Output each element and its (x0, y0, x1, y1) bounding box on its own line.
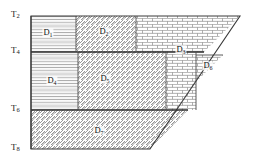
subdomain-label-D6: D6 (202, 61, 213, 70)
domain-decomposition-figure: T2 T4 T6 T8 D1 D2 D3 D4 D5 D6 D7 (0, 0, 269, 163)
axis-tick-T8: T8 (11, 143, 20, 153)
subdomain-D5-fill (78, 52, 166, 110)
subdomain-label-D5: D5 (99, 74, 110, 83)
figure-canvas (0, 0, 269, 163)
subdomain-label-D2: D2 (98, 27, 109, 36)
axis-tick-T2: T2 (11, 10, 20, 20)
subdomain-label-D4: D4 (46, 76, 57, 85)
subdomain-label-D3: D3 (175, 45, 186, 54)
subdomain-label-D1: D1 (42, 28, 53, 37)
subdomain-label-D7: D7 (93, 126, 104, 135)
subdomain-D3-top-fill (136, 16, 240, 52)
axis-tick-T6: T6 (11, 104, 20, 114)
subdomain-D7-fill (31, 110, 188, 149)
subdomain-D3-column-fill (166, 52, 196, 110)
axis-tick-T4: T4 (11, 46, 20, 56)
